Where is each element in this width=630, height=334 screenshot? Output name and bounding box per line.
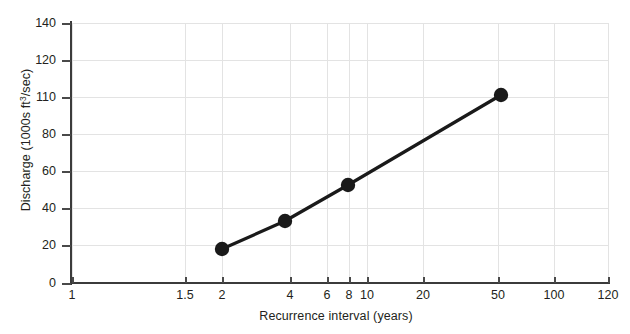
chart-container: Discharge (1000s ft3/sec) Recurrence int… [0,0,630,334]
data-point-marker [494,88,508,102]
series-line [222,95,501,249]
data-point-marker [341,178,355,192]
data-point-marker [215,242,229,256]
data-series [0,0,630,334]
data-point-marker [278,214,292,228]
